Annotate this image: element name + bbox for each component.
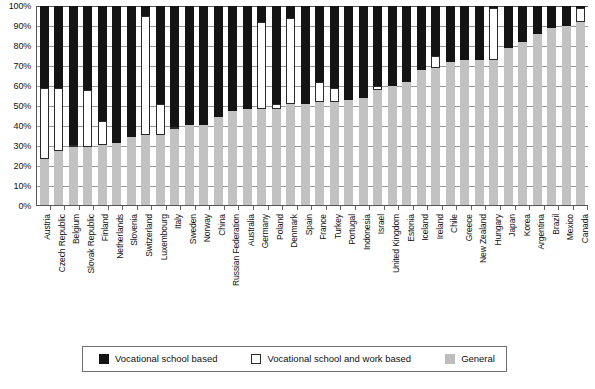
stacked-bar[interactable] [402, 6, 411, 205]
bar-segment-vocational-school-based [54, 6, 63, 88]
bar-segment-general [214, 117, 223, 205]
stacked-bar[interactable] [199, 6, 208, 205]
x-tick [196, 206, 211, 210]
x-label-cell: Mexico [559, 212, 574, 332]
stacked-bar[interactable] [431, 6, 440, 205]
x-label-cell: Italy [167, 212, 182, 332]
x-label-cell: France [312, 212, 327, 332]
bar-slot [327, 6, 342, 205]
bar-segment-vocational-school-based [504, 6, 513, 48]
bar-segment-vocational-school-based [373, 6, 382, 86]
x-tick [65, 206, 80, 210]
bar-segment-general [330, 102, 339, 205]
bar-segment-general [40, 159, 49, 205]
stacked-bar[interactable] [257, 6, 266, 205]
legend-label: Vocational school based [115, 354, 217, 364]
stacked-bar[interactable] [533, 6, 542, 205]
legend-item[interactable]: Vocational school based [99, 354, 217, 364]
stacked-bar[interactable] [83, 6, 92, 205]
stacked-bar[interactable] [112, 6, 121, 205]
x-tick [443, 206, 458, 210]
stacked-bar[interactable] [69, 6, 78, 205]
bar-segment-vocational-school-based [257, 6, 266, 22]
stacked-bar[interactable] [170, 6, 179, 205]
stacked-bar[interactable] [518, 6, 527, 205]
stacked-bar[interactable] [185, 6, 194, 205]
bar-segment-general [489, 60, 498, 205]
x-label-cell: Australia [239, 212, 254, 332]
stacked-bar[interactable] [489, 6, 498, 205]
x-tick [152, 206, 167, 210]
legend-item[interactable]: Vocational school and work based [251, 354, 411, 364]
x-tick [312, 206, 327, 210]
stacked-bar[interactable] [141, 6, 150, 205]
y-tick-label: 20% [14, 162, 31, 171]
stacked-bar[interactable] [40, 6, 49, 205]
x-tick [298, 206, 313, 210]
bar-segment-vocational-school-based [533, 6, 542, 34]
stacked-bar[interactable] [228, 6, 237, 205]
bar-segment-general [228, 111, 237, 205]
x-label-cell: Chile [443, 212, 458, 332]
x-label-cell: Belgium [65, 212, 80, 332]
x-tick [530, 206, 545, 210]
stacked-bar[interactable] [344, 6, 353, 205]
stacked-bar[interactable] [243, 6, 252, 205]
bar-segment-general [286, 104, 295, 205]
bar-segment-vocational-school-based [243, 6, 252, 109]
stacked-bar[interactable] [388, 6, 397, 205]
bar-segment-vocational-school-based [40, 6, 49, 88]
stacked-bar[interactable] [373, 6, 382, 205]
bar-segment-vocational-school-based [170, 6, 179, 127]
bar-slot [414, 6, 429, 205]
stacked-bar[interactable] [156, 6, 165, 205]
x-label-cell: Japan [501, 212, 516, 332]
x-tick [414, 206, 429, 210]
chart-figure: 0%10%20%30%40%50%60%70%80%90%100% Austri… [0, 0, 595, 389]
stacked-bar[interactable] [214, 6, 223, 205]
x-tick [516, 206, 531, 210]
x-label-cell: Netherlands [109, 212, 124, 332]
bar-segment-general [431, 68, 440, 205]
bar-slot [153, 6, 168, 205]
stacked-bar[interactable] [301, 6, 310, 205]
stacked-bar[interactable] [54, 6, 63, 205]
x-tick-label: Canada [581, 214, 590, 243]
stacked-bar[interactable] [475, 6, 484, 205]
bar-segment-general [199, 125, 208, 205]
x-label-cell: Hungary [486, 212, 501, 332]
bar-slot [400, 6, 415, 205]
bar-segment-vocational-school-and-work-based [315, 82, 324, 102]
x-label-cell: Iceland [414, 212, 429, 332]
stacked-bar[interactable] [330, 6, 339, 205]
x-tick [225, 206, 240, 210]
legend-item[interactable]: General [445, 354, 495, 364]
stacked-bar[interactable] [315, 6, 324, 205]
bar-segment-general [141, 135, 150, 205]
stacked-bar[interactable] [460, 6, 469, 205]
stacked-bar[interactable] [272, 6, 281, 205]
stacked-bar[interactable] [359, 6, 368, 205]
stacked-bar[interactable] [446, 6, 455, 205]
bar-segment-vocational-school-and-work-based [54, 88, 63, 152]
bar-slot [240, 6, 255, 205]
bar-slot [182, 6, 197, 205]
stacked-bar[interactable] [286, 6, 295, 205]
x-label-cell: Poland [269, 212, 284, 332]
bar-segment-general [127, 137, 136, 205]
stacked-bar[interactable] [98, 6, 107, 205]
bars-layer [37, 6, 588, 205]
bar-segment-general [98, 145, 107, 205]
y-tick-label: 30% [14, 142, 31, 151]
stacked-bar[interactable] [127, 6, 136, 205]
bar-slot [385, 6, 400, 205]
stacked-bar[interactable] [547, 6, 556, 205]
bar-segment-vocational-school-based [156, 6, 165, 104]
stacked-bar[interactable] [576, 6, 585, 205]
stacked-bar[interactable] [417, 6, 426, 205]
stacked-bar[interactable] [504, 6, 513, 205]
bar-segment-vocational-school-based [214, 6, 223, 117]
bar-slot [255, 6, 270, 205]
stacked-bar[interactable] [562, 6, 571, 205]
bar-segment-vocational-school-based [98, 6, 107, 121]
